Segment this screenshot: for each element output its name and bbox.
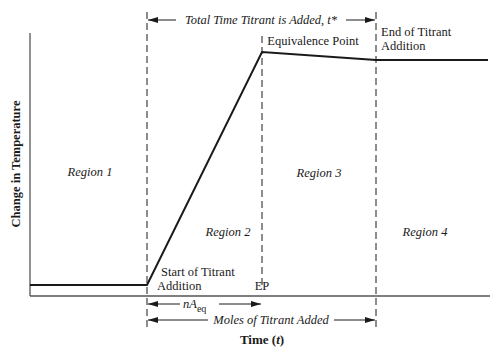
end-addition-label-line1: End of Titrant [381,25,452,39]
start-addition-label-line2: Addition [157,279,202,293]
region-3-label: Region 3 [296,166,342,180]
ep-label: EP [255,279,270,293]
total-time-label: Total Time Titrant is Added, t* [185,13,338,27]
equivalence-point-label: Equivalence Point [267,34,359,48]
region-4-label: Region 4 [402,225,448,239]
moles-label: Moles of Titrant Added [212,313,329,327]
region-2-label: Region 2 [205,225,251,239]
x-axis-title: Time (t) [240,332,284,347]
y-axis-title: Change in Temperature [9,100,23,227]
naeq-label: nAeq [183,297,206,314]
start-addition-label-line1: Start of Titrant [161,265,235,279]
region-1-label: Region 1 [67,165,113,179]
end-addition-label-line2: Addition [381,39,426,53]
titration-diagram: Total Time Titrant is Added, t* Equivale… [0,0,502,361]
